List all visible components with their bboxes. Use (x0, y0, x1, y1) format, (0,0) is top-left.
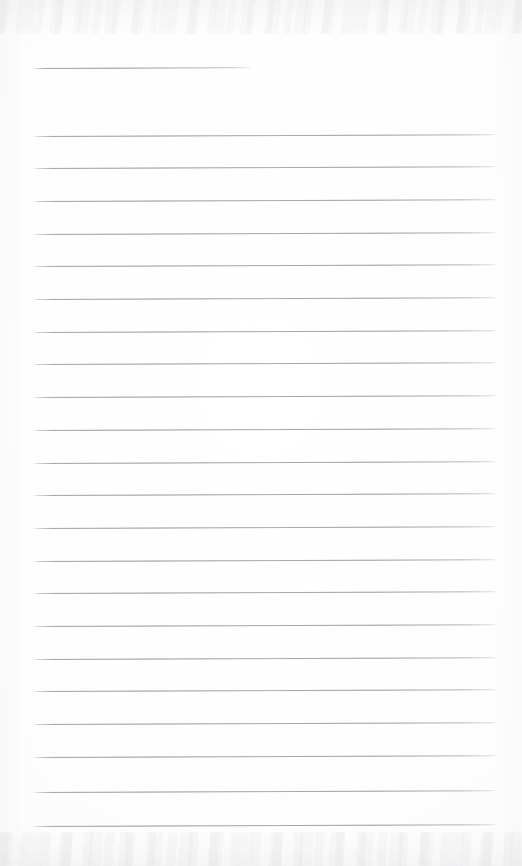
writing-rule-21 (34, 790, 495, 793)
writing-rule-15 (34, 592, 495, 595)
writing-rule-17 (34, 657, 495, 660)
writing-rule-7 (34, 330, 495, 333)
writing-rule-20 (34, 755, 495, 758)
writing-rule-13 (34, 526, 495, 529)
ruled-lines-layer (0, 0, 522, 866)
writing-rule-12 (34, 493, 495, 496)
writing-rule-22 (34, 824, 495, 827)
writing-rule-16 (34, 624, 495, 627)
writing-rule-10 (34, 428, 495, 431)
writing-rule-19 (34, 722, 495, 725)
writing-rule-4 (34, 232, 495, 235)
scanned-page (0, 0, 522, 866)
writing-rule-8 (34, 363, 495, 366)
writing-rule-6 (34, 297, 495, 300)
writing-rule-11 (34, 461, 495, 464)
writing-rule-5 (34, 265, 495, 268)
writing-rule-18 (34, 690, 495, 693)
writing-rule-14 (34, 559, 495, 562)
writing-rule-9 (34, 395, 495, 398)
writing-rule-1 (34, 134, 495, 137)
writing-rule-3 (34, 199, 495, 202)
writing-rule-2 (34, 166, 495, 169)
signature-rule (34, 67, 250, 69)
